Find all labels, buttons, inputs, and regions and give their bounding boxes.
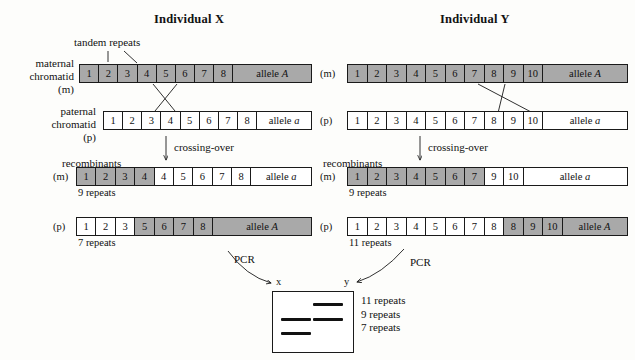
allele-cell: allele A <box>543 65 627 82</box>
repeat-cell: 6 <box>176 65 195 82</box>
repeat-cell: 8 <box>214 65 233 82</box>
repeat-cell: 7 <box>219 112 238 129</box>
repeat-cell: 6 <box>446 65 466 82</box>
repeat-cell: 8 <box>504 218 524 235</box>
repeat-cell: 10 <box>504 168 524 185</box>
gel-electrophoresis-box <box>272 291 354 353</box>
crossing-over-label-x: crossing-over <box>174 141 234 153</box>
repeat-cell: 9 <box>504 112 524 129</box>
repeat-cell: 3 <box>142 112 161 129</box>
repeat-cell: 7 <box>213 168 232 185</box>
repeat-cell: 6 <box>446 218 466 235</box>
paternal-chromatid-label-y: (p) <box>320 115 332 126</box>
repeat-cell: 1 <box>348 65 368 82</box>
repeat-cell: 1 <box>348 218 368 235</box>
repeat-cell: 4 <box>155 168 174 185</box>
repeat-cell: 1 <box>348 112 368 129</box>
repeat-cell: 6 <box>200 112 219 129</box>
repeat-cell: 2 <box>368 218 388 235</box>
maternal-chromatid-label-y: (m) <box>320 68 335 79</box>
repeat-cell: 5 <box>181 112 200 129</box>
repeat-cell: 5 <box>135 218 154 235</box>
maternal-line-2: chromatid <box>0 70 74 83</box>
repeat-cell: 3 <box>387 65 407 82</box>
repeat-cell: 7 <box>465 218 485 235</box>
repeat-cell: 1 <box>104 112 123 129</box>
allele-cell: allele A <box>233 65 311 82</box>
repeat-cell: 10 <box>524 112 544 129</box>
gel-band <box>281 332 311 335</box>
repeat-cell: 6 <box>193 168 212 185</box>
gel-band <box>281 318 311 321</box>
paternal-line-2: chromatid <box>22 118 96 131</box>
repeat-cell: 4 <box>407 65 427 82</box>
gel-legend-item-0: 11 repeats <box>361 294 406 308</box>
panel-title-individual-x: Individual X <box>154 12 224 27</box>
maternal-line-1: maternal <box>0 57 74 70</box>
allele-cell: allele A <box>213 218 311 235</box>
repeat-cell: 8 <box>485 112 505 129</box>
repeats-count-x-p: 7 repeats <box>78 237 116 248</box>
repeat-cell: 4 <box>138 65 157 82</box>
repeat-cell: 10 <box>524 65 544 82</box>
repeat-cell: 8 <box>485 65 505 82</box>
repeat-cell: 8 <box>238 112 257 129</box>
repeat-cell: 3 <box>387 112 407 129</box>
pcr-label-left: PCR <box>234 253 255 265</box>
diagram-canvas: Individual X tandem repeats maternal chr… <box>0 0 635 360</box>
crossing-over-label-y: crossing-over <box>428 141 488 153</box>
repeat-cell: 2 <box>368 168 388 185</box>
maternal-line-3: (m) <box>0 83 74 96</box>
allele-cell: allele a <box>257 112 311 129</box>
repeat-cell: 5 <box>426 168 446 185</box>
repeat-cell: 1 <box>77 218 96 235</box>
repeat-cell: 4 <box>407 112 427 129</box>
recombinant-p-label-x: (p) <box>53 221 65 232</box>
repeat-cell: 6 <box>155 218 174 235</box>
lane-label-x: x <box>276 276 281 287</box>
repeat-cell: 4 <box>407 218 427 235</box>
gel-legend-item-1: 9 repeats <box>361 308 406 322</box>
repeats-count-y-p: 11 repeats <box>349 237 391 248</box>
strand-recombinant-m-y: 1234567910allele a <box>347 167 628 186</box>
repeats-count-y-m: 9 repeats <box>349 187 387 198</box>
gel-band <box>313 303 343 306</box>
strand-maternal-y: 12345678910allele A <box>347 64 628 83</box>
recombinant-m-label-y: (m) <box>320 171 335 182</box>
paternal-line-3: (p) <box>22 131 96 144</box>
lane-label-y: y <box>344 276 349 287</box>
strand-recombinant-p-x: 1235678allele A <box>76 217 312 236</box>
repeat-cell: 2 <box>368 65 388 82</box>
repeat-cell: 7 <box>465 168 485 185</box>
repeat-cell: 1 <box>348 168 368 185</box>
repeat-cell: 3 <box>387 168 407 185</box>
repeat-cell: 4 <box>407 168 427 185</box>
repeat-cell: 10 <box>543 218 563 235</box>
repeat-cell: 5 <box>426 65 446 82</box>
repeat-cell: 5 <box>157 65 176 82</box>
repeat-cell: 9 <box>524 218 544 235</box>
repeat-cell: 4 <box>161 112 180 129</box>
repeat-cell: 3 <box>116 218 135 235</box>
repeat-cell: 4 <box>135 168 154 185</box>
strand-paternal-x: 12345678allele a <box>103 111 312 130</box>
crossover-lines-x <box>153 84 177 111</box>
repeat-cell: 2 <box>96 168 115 185</box>
repeat-cell: 5 <box>426 112 446 129</box>
strand-recombinant-m-x: 123445678allele a <box>76 167 312 186</box>
repeat-cell: 8 <box>194 218 213 235</box>
repeat-cell: 2 <box>99 65 118 82</box>
repeat-cell: 1 <box>77 168 96 185</box>
repeat-cell: 9 <box>504 65 524 82</box>
allele-cell: allele A <box>563 218 627 235</box>
repeat-cell: 7 <box>465 112 485 129</box>
repeat-cell: 5 <box>426 218 446 235</box>
repeat-cell: 2 <box>96 218 115 235</box>
repeat-cell: 8 <box>485 218 505 235</box>
repeat-cell: 5 <box>174 168 193 185</box>
repeats-count-x-m: 9 repeats <box>78 187 116 198</box>
strand-recombinant-p-y: 123456788910allele A <box>347 217 628 236</box>
repeat-cell: 7 <box>174 218 193 235</box>
repeat-cell: 8 <box>232 168 251 185</box>
allele-cell: allele a <box>251 168 311 185</box>
